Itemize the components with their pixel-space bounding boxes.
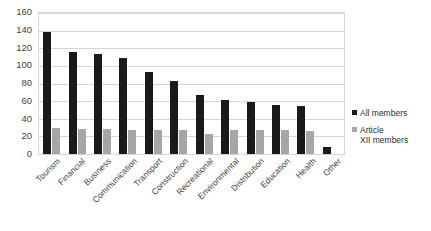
bars-layer xyxy=(39,13,344,154)
bar xyxy=(297,106,305,154)
bar-group xyxy=(268,13,293,154)
bar xyxy=(281,130,289,154)
bar-group xyxy=(242,13,267,154)
x-axis-labels: TourismFinancialBusinessCommunicationTra… xyxy=(38,156,345,228)
bar xyxy=(247,102,255,155)
bar xyxy=(221,100,229,154)
legend-label: All members xyxy=(360,108,407,118)
bar-group xyxy=(293,13,318,154)
bar xyxy=(154,130,162,154)
bar xyxy=(52,128,60,154)
bar-group xyxy=(115,13,140,154)
legend-label: Article XII members xyxy=(360,125,408,145)
bar-group xyxy=(64,13,89,154)
y-axis-tick: 140 xyxy=(16,25,32,35)
bar xyxy=(145,72,153,154)
bar-group xyxy=(217,13,242,154)
gridline xyxy=(39,154,344,155)
bar xyxy=(69,52,77,154)
bar xyxy=(119,58,127,154)
y-axis: 160140120100806040200 xyxy=(0,6,34,161)
bar xyxy=(94,54,102,154)
y-axis-tick: 80 xyxy=(21,78,32,88)
bar-group xyxy=(90,13,115,154)
bar-group xyxy=(166,13,191,154)
y-axis-tick: 100 xyxy=(16,60,32,70)
bar xyxy=(78,129,86,154)
x-axis-label: Other xyxy=(321,156,343,178)
chart-legend: All membersArticle XII members xyxy=(352,108,431,152)
bar xyxy=(205,134,213,154)
bar xyxy=(306,131,314,154)
bar xyxy=(196,95,204,155)
plot-area xyxy=(38,12,345,155)
bar xyxy=(179,130,187,155)
y-axis-tick: 20 xyxy=(21,131,32,141)
y-axis-tick: 160 xyxy=(16,7,32,17)
y-axis-tick: 40 xyxy=(21,114,32,124)
bar xyxy=(323,147,331,154)
bar xyxy=(230,130,238,154)
bar xyxy=(170,81,178,155)
bar-group xyxy=(319,13,344,154)
bar xyxy=(272,105,280,154)
legend-swatch-icon xyxy=(352,110,357,115)
y-axis-tick: 120 xyxy=(16,43,32,53)
bar xyxy=(128,130,136,155)
bar-group xyxy=(192,13,217,154)
bar-chart: 160140120100806040200 TourismFinancialBu… xyxy=(0,0,431,231)
legend-item[interactable]: All members xyxy=(352,108,431,118)
bar-group xyxy=(141,13,166,154)
bar xyxy=(43,32,51,155)
bar xyxy=(256,130,264,155)
legend-item[interactable]: Article XII members xyxy=(352,125,431,145)
legend-swatch-icon xyxy=(352,127,357,132)
x-axis-label: Health xyxy=(293,156,317,180)
bar-group xyxy=(39,13,64,154)
y-axis-tick: 60 xyxy=(21,96,32,106)
bar xyxy=(103,129,111,154)
y-axis-tick: 0 xyxy=(27,149,32,159)
